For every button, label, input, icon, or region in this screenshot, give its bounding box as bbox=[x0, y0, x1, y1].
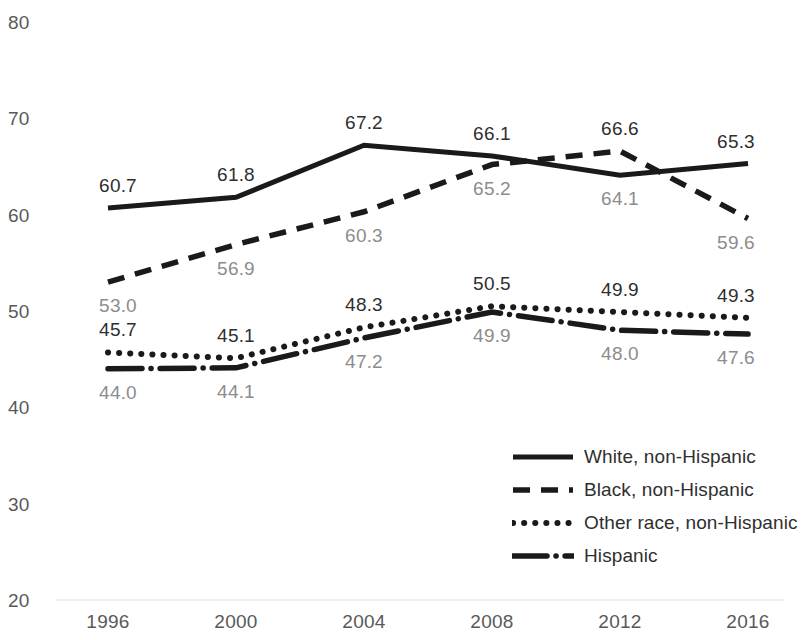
legend-swatch-icon-solid bbox=[512, 450, 574, 464]
legend-swatch-icon-longdash bbox=[512, 549, 574, 563]
data-label-s1-p1: 56.9 bbox=[217, 259, 255, 278]
data-label-s0-p0: 60.7 bbox=[99, 176, 137, 195]
data-label-s1-p5: 59.6 bbox=[717, 233, 755, 252]
data-label-s1-p0: 53.0 bbox=[99, 296, 137, 315]
series-line-3 bbox=[108, 312, 748, 369]
data-label-s0-p3: 66.1 bbox=[473, 124, 511, 143]
x-axis-tick-2012: 2012 bbox=[565, 612, 675, 631]
data-label-s0-p5: 65.3 bbox=[717, 132, 755, 151]
data-label-s1-p3: 65.2 bbox=[473, 179, 511, 198]
data-label-s3-p4: 48.0 bbox=[601, 344, 639, 363]
legend-label-3: Hispanic bbox=[584, 546, 658, 565]
legend-item-0[interactable]: White, non-Hispanic bbox=[512, 440, 784, 473]
series-line-0 bbox=[108, 145, 748, 208]
data-label-s3-p5: 47.6 bbox=[717, 348, 755, 367]
data-label-s0-p1: 61.8 bbox=[217, 165, 255, 184]
x-axis-tick-2000: 2000 bbox=[181, 612, 291, 631]
x-axis-tick-2016: 2016 bbox=[693, 612, 802, 631]
data-label-s2-p0: 45.7 bbox=[99, 320, 137, 339]
legend-item-1[interactable]: Black, non-Hispanic bbox=[512, 473, 784, 506]
series-lines bbox=[108, 145, 748, 368]
legend-label-1: Black, non-Hispanic bbox=[584, 480, 754, 499]
legend-item-3[interactable]: Hispanic bbox=[512, 539, 784, 572]
data-label-s2-p3: 50.5 bbox=[473, 274, 511, 293]
data-label-s3-p3: 49.9 bbox=[473, 326, 511, 345]
data-label-s0-p2: 67.2 bbox=[345, 113, 383, 132]
x-axis-tick-1996: 1996 bbox=[53, 612, 163, 631]
data-label-s2-p2: 48.3 bbox=[345, 295, 383, 314]
data-label-s2-p4: 49.9 bbox=[601, 280, 639, 299]
x-axis-tick-2008: 2008 bbox=[437, 612, 547, 631]
legend-label-0: White, non-Hispanic bbox=[584, 447, 756, 466]
series-line-1 bbox=[108, 151, 748, 282]
data-label-s1-p2: 60.3 bbox=[345, 226, 383, 245]
chart-legend: White, non-HispanicBlack, non-HispanicOt… bbox=[512, 440, 784, 572]
data-label-s3-p0: 44.0 bbox=[99, 383, 137, 402]
legend-swatch-icon-dashed bbox=[512, 483, 574, 497]
legend-swatch-icon-dotted bbox=[512, 516, 574, 530]
x-axis-tick-2004: 2004 bbox=[309, 612, 419, 631]
data-label-s0-p4: 64.1 bbox=[601, 189, 639, 208]
data-label-s2-p1: 45.1 bbox=[217, 326, 255, 345]
data-label-s3-p2: 47.2 bbox=[345, 352, 383, 371]
data-label-s2-p5: 49.3 bbox=[717, 286, 755, 305]
data-label-s1-p4: 66.6 bbox=[601, 119, 639, 138]
data-label-s3-p1: 44.1 bbox=[217, 382, 255, 401]
legend-label-2: Other race, non-Hispanic bbox=[584, 513, 798, 532]
legend-item-2[interactable]: Other race, non-Hispanic bbox=[512, 506, 784, 539]
